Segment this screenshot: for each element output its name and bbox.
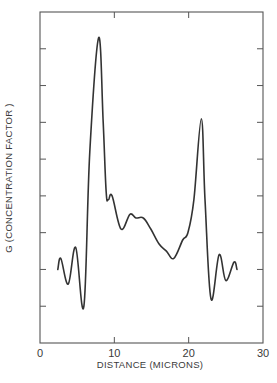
- x-tick-label: 10: [108, 347, 120, 359]
- data-line-g: [58, 37, 237, 308]
- axis-ticks: [40, 12, 263, 343]
- x-tick-labels: 0102030: [37, 347, 269, 359]
- y-axis-label: G (CONCENTRATION FACTOR ): [3, 103, 14, 253]
- x-tick-label: 30: [257, 347, 269, 359]
- x-axis-label: DISTANCE (MICRONS): [97, 359, 204, 370]
- x-tick-label: 0: [37, 347, 43, 359]
- plot-frame: [40, 12, 263, 343]
- x-tick-label: 20: [183, 347, 195, 359]
- line-chart: 0102030 DISTANCE (MICRONS) G (CONCENTRAT…: [0, 0, 277, 383]
